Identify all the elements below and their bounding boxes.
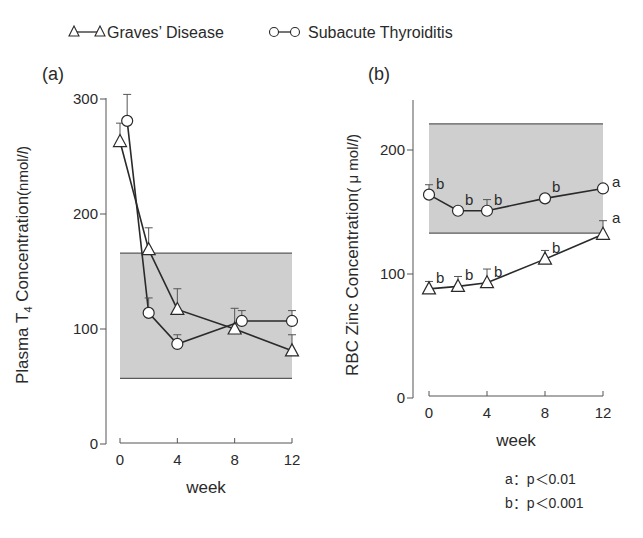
circle-point [482, 205, 493, 216]
y-axis-label: RBC Zinc Concentration( μ mol/l) [343, 134, 362, 376]
legend-label: Subacute Thyroiditis [308, 24, 453, 41]
y-tick-label: 200 [380, 141, 405, 158]
significance-label: b [465, 191, 473, 208]
legend: Graves’ Disease Subacute Thyroiditis [69, 24, 453, 41]
y-axis-title: RBC Zinc Concentration( μ mol/l) [343, 134, 362, 376]
normal-range-rect [429, 124, 603, 233]
y-axis-label: Plasma T4 Concentration(nmol/l) [13, 146, 34, 384]
significance-label: b [494, 191, 502, 208]
circle-marker-icon [291, 28, 300, 37]
triangle-point [114, 135, 127, 147]
circle-point [453, 205, 464, 216]
legend-label: Graves’ Disease [107, 24, 224, 41]
chart-panel-b: (b) RBC Zinc Concentration( μ mol/l) 010… [343, 64, 621, 450]
x-tick-label: 0 [425, 404, 433, 421]
panel-label: (a) [42, 64, 64, 84]
footnote-line-a: a：p＜0.01 [505, 471, 576, 487]
footnote-line-b: b：p＜0.001 [505, 495, 584, 511]
y-tick-label: 0 [397, 389, 405, 406]
y-tick-label: 100 [73, 320, 98, 337]
x-tick-label: 8 [541, 404, 549, 421]
significance-label: b [436, 269, 444, 286]
x-axis-label: week [185, 478, 226, 497]
significance-label: b [465, 266, 473, 283]
chart-panel-a: (a) Plasma T4 Concentration(nmol/l) 0100… [13, 64, 300, 497]
significance-footnote: a：p＜0.01 b：p＜0.001 [505, 471, 584, 511]
y-tick-label: 300 [73, 90, 98, 107]
legend-item-graves: Graves’ Disease [69, 24, 224, 41]
x-tick-label: 12 [284, 451, 301, 468]
panel-label: (b) [368, 64, 390, 84]
y-tick-label: 200 [73, 205, 98, 222]
significance-label: b [436, 175, 444, 192]
triangle-point [142, 243, 155, 255]
triangle-marker-icon [69, 26, 79, 36]
circle-point [287, 315, 298, 326]
legend-item-subacute: Subacute Thyroiditis [270, 24, 453, 41]
circle-point [424, 189, 435, 200]
significance-label: b [494, 263, 502, 280]
circle-point [122, 115, 133, 126]
circle-point [598, 183, 609, 194]
figure: Graves’ Disease Subacute Thyroiditis (a)… [0, 0, 643, 538]
x-tick-label: 12 [595, 404, 612, 421]
circle-point [236, 315, 247, 326]
y-tick-label: 0 [90, 435, 98, 452]
significance-label: b [552, 239, 560, 256]
significance-label: b [552, 178, 560, 195]
triangle-marker-icon [95, 26, 105, 36]
x-tick-label: 8 [230, 451, 238, 468]
x-tick-label: 4 [483, 404, 491, 421]
y-tick-label: 100 [380, 265, 405, 282]
circle-point [143, 307, 154, 318]
x-axis-label: week [495, 431, 536, 450]
significance-label: a [612, 173, 621, 190]
normal-range-band [429, 124, 603, 233]
circle-marker-icon [270, 28, 279, 37]
significance-label: a [612, 209, 621, 226]
x-tick-label: 0 [116, 451, 124, 468]
circle-point [540, 193, 551, 204]
triangle-point [539, 252, 552, 264]
x-tick-label: 4 [173, 451, 181, 468]
y-axis-title: Plasma T4 Concentration(nmol/l) [13, 146, 34, 384]
circle-point [172, 338, 183, 349]
series-line [429, 234, 603, 289]
